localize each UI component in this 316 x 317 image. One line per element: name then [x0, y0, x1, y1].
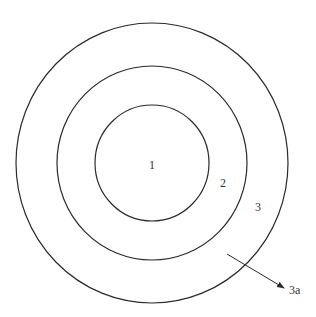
label-region-2: 2	[220, 177, 226, 189]
label-region-3: 3	[255, 201, 261, 213]
concentric-circles-diagram	[0, 0, 316, 317]
pointer-arrow	[227, 254, 284, 288]
label-region-1: 1	[149, 159, 155, 171]
label-region-3a: 3a	[289, 284, 300, 296]
